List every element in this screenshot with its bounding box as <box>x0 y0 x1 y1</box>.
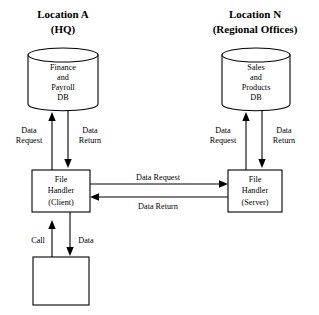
arrow-head-left-icon <box>90 193 99 200</box>
edge-left-return-line1: Data <box>82 126 98 135</box>
edge-right-request-line1: Data <box>215 126 231 135</box>
edge-right-return-line1: Data <box>276 126 292 135</box>
arrow-head-up-icon <box>48 112 55 121</box>
client-line2: Handler <box>48 186 75 195</box>
edge-right-request-line2: Request <box>210 136 237 145</box>
location-n-subtitle: (Regional Offices) <box>213 23 298 36</box>
arrow-head-down-icon <box>66 247 73 256</box>
db-left-line4: DB <box>57 93 69 102</box>
arrow-head-up-icon <box>48 220 55 229</box>
db-left-line3: Payroll <box>51 83 75 92</box>
edge-left-data-return: Data Return <box>64 110 101 168</box>
edge-mid-data-return: Data Return <box>90 193 228 211</box>
node-file-handler-client: File Handler (Client) <box>32 170 90 212</box>
db-right-line3: Products <box>242 83 271 92</box>
db-right-line2: and <box>250 73 262 82</box>
location-a-subtitle: (HQ) <box>51 23 76 36</box>
edge-bottom-data-label: Data <box>78 236 94 245</box>
distributed-file-handler-diagram: Location A (HQ) Finance and Payroll DB D… <box>0 0 319 315</box>
diagram-canvas: Location A (HQ) Finance and Payroll DB D… <box>0 0 319 315</box>
db-left-line2: and <box>57 73 69 82</box>
edge-mid-request-label: Data Request <box>136 173 181 182</box>
server-line3: (Server) <box>242 198 269 207</box>
edge-right-data-return: Data Return <box>258 110 295 168</box>
node-file-handler-server: File Handler (Server) <box>228 170 282 212</box>
edge-left-request-line1: Data <box>21 126 37 135</box>
arrow-head-down-icon <box>258 159 265 168</box>
edge-bottom-data: Data <box>66 212 94 256</box>
edge-left-data-request: Data Request <box>16 112 56 170</box>
db-right-line4: DB <box>250 93 262 102</box>
edge-bottom-call-label: Call <box>31 236 45 245</box>
edge-left-request-line2: Request <box>16 136 43 145</box>
database-sales-products: Sales and Products DB <box>222 48 290 111</box>
edge-mid-data-request: Data Request <box>90 173 228 188</box>
node-application-box <box>33 257 89 305</box>
location-a-title: Location A <box>37 8 89 20</box>
edge-mid-return-label: Data Return <box>138 202 178 211</box>
server-line2: Handler <box>242 186 269 195</box>
edge-right-return-line2: Return <box>273 136 295 145</box>
edge-right-data-request: Data Request <box>210 112 250 170</box>
database-finance-payroll: Finance and Payroll DB <box>28 48 98 111</box>
server-line1: File <box>249 175 262 184</box>
arrow-head-down-icon <box>64 159 71 168</box>
client-line1: File <box>55 175 68 184</box>
edge-left-return-line2: Return <box>79 136 101 145</box>
client-line3: (Client) <box>48 198 74 207</box>
db-right-line1: Sales <box>247 63 264 72</box>
arrow-head-right-icon <box>219 180 228 187</box>
edge-bottom-call: Call <box>31 220 56 257</box>
location-n-title: Location N <box>229 8 281 20</box>
arrow-head-up-icon <box>242 112 249 121</box>
db-left-line1: Finance <box>50 63 76 72</box>
